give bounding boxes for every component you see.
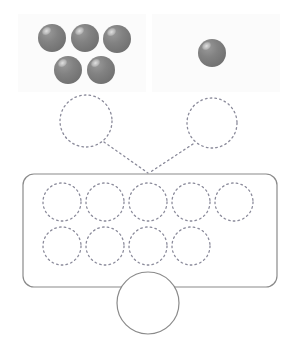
scene-layer [0, 0, 296, 344]
right-connector-line [149, 144, 193, 173]
sphere[interactable] [38, 24, 66, 52]
sphere[interactable] [71, 24, 99, 52]
result-container[interactable] [23, 174, 277, 287]
left-group-answer-slot[interactable] [60, 95, 112, 147]
left-connector-line [104, 142, 148, 173]
sphere[interactable] [87, 56, 115, 84]
total-answer-slot[interactable] [117, 272, 179, 334]
counting-task-canvas: 5 1 [0, 0, 296, 344]
sphere[interactable] [198, 39, 226, 67]
right-group-spheres [198, 39, 226, 67]
sphere[interactable] [54, 56, 82, 84]
sphere[interactable] [103, 25, 131, 53]
connector-lines [104, 142, 193, 173]
right-group-answer-slot[interactable] [187, 98, 237, 148]
